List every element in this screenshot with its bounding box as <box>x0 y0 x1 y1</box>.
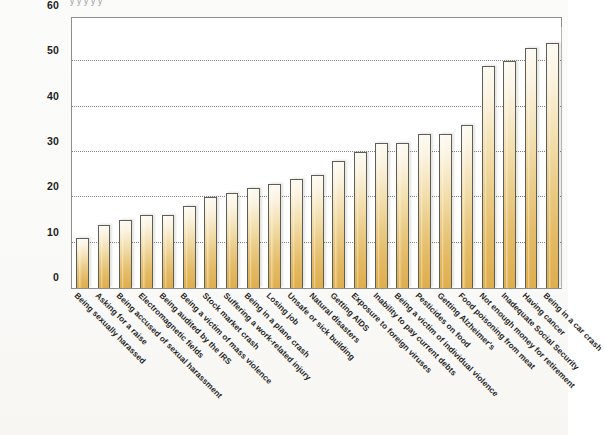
bar-slot <box>435 18 456 288</box>
bar[interactable] <box>439 134 452 288</box>
bar[interactable] <box>183 206 196 288</box>
bar[interactable] <box>140 215 153 288</box>
bar-slot <box>414 18 435 288</box>
y-tick-label-0: 0 <box>53 271 59 283</box>
bar[interactable] <box>162 215 175 288</box>
bar-slot <box>350 18 371 288</box>
bars-layer <box>72 18 561 288</box>
bar-slot <box>93 18 114 288</box>
bar-slot <box>499 18 520 288</box>
bar[interactable] <box>311 175 324 288</box>
bar[interactable] <box>226 193 239 288</box>
bar[interactable] <box>525 48 538 288</box>
bar-slot <box>371 18 392 288</box>
bar[interactable] <box>461 125 474 288</box>
bar-slot <box>542 18 563 288</box>
bar[interactable] <box>290 179 303 288</box>
bar-slot <box>221 18 242 288</box>
bar[interactable] <box>119 220 132 288</box>
plot-area <box>71 17 562 289</box>
bar-slot <box>136 18 157 288</box>
bar-slot <box>520 18 541 288</box>
bar-slot <box>328 18 349 288</box>
y-tick-label-40: 40 <box>47 90 59 102</box>
bar[interactable] <box>332 161 345 288</box>
bar-slot <box>264 18 285 288</box>
bar[interactable] <box>76 238 89 288</box>
bar-slot <box>307 18 328 288</box>
y-axis: 0102030405060 <box>0 17 65 289</box>
y-tick-label-20: 20 <box>47 180 59 192</box>
bar-slot <box>179 18 200 288</box>
bar[interactable] <box>375 143 388 288</box>
bar-slot <box>456 18 477 288</box>
bar[interactable] <box>98 225 111 288</box>
bar[interactable] <box>247 188 260 288</box>
bar[interactable] <box>503 61 516 288</box>
bar-slot <box>285 18 306 288</box>
y-tick-label-10: 10 <box>47 226 59 238</box>
bar[interactable] <box>482 66 495 288</box>
bar[interactable] <box>396 143 409 288</box>
bar-slot <box>200 18 221 288</box>
bar-slot <box>115 18 136 288</box>
bar[interactable] <box>268 184 281 288</box>
bar-slot <box>478 18 499 288</box>
bar-slot <box>392 18 413 288</box>
x-axis: Being sexually harassedAsking for a rais… <box>71 291 562 435</box>
bar[interactable] <box>354 152 367 288</box>
y-tick-label-60: 60 <box>47 0 59 11</box>
bar[interactable] <box>546 43 559 288</box>
y-tick-label-50: 50 <box>47 44 59 56</box>
bar-slot <box>157 18 178 288</box>
bar[interactable] <box>418 134 431 288</box>
bar-slot <box>72 18 93 288</box>
bar[interactable] <box>204 197 217 288</box>
chart-title-clipped: y y y y y <box>70 0 500 6</box>
y-tick-label-30: 30 <box>47 135 59 147</box>
bar-slot <box>243 18 264 288</box>
